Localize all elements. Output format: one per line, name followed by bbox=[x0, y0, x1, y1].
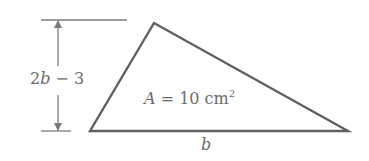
height-label-operator: − bbox=[50, 69, 74, 88]
height-label-coefficient: 2 bbox=[30, 69, 40, 88]
height-label-constant: 3 bbox=[74, 69, 84, 88]
area-label: A = 10 cm2 bbox=[144, 91, 235, 107]
height-label-variable: b bbox=[40, 69, 50, 88]
triangle-diagram: 2b − 3 A = 10 cm2 b bbox=[0, 0, 369, 161]
area-label-exponent: 2 bbox=[229, 88, 235, 99]
area-label-variable: A bbox=[144, 89, 156, 108]
base-label: b bbox=[201, 137, 211, 153]
height-label: 2b − 3 bbox=[30, 69, 84, 89]
area-label-value: = 10 cm bbox=[156, 89, 229, 108]
triangle-shape bbox=[90, 23, 348, 131]
